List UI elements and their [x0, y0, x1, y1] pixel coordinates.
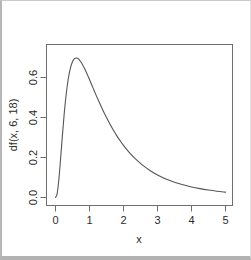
y-tick-label: 0.4: [27, 110, 39, 125]
y-tick-label: 0.0: [27, 190, 39, 205]
y-axis-title: df(x, 6, 18): [7, 99, 19, 152]
x-axis-title: x: [136, 233, 142, 245]
x-tick-label: 4: [188, 214, 194, 226]
y-axis-tick-labels: 0.0 0.2 0.4 0.6: [27, 70, 39, 205]
y-axis-ticks: [41, 78, 47, 198]
plot-box: [47, 45, 233, 206]
x-tick-label: 5: [222, 214, 228, 226]
density-curve: [56, 58, 226, 198]
x-tick-label: 3: [154, 214, 160, 226]
y-tick-label: 0.2: [27, 150, 39, 165]
x-tick-label: 1: [86, 214, 92, 226]
x-axis-ticks: [56, 206, 226, 212]
plot-page: 0 1 2 3 4 5 0.0 0.2 0.4 0.6 df(x, 6, 18)…: [0, 0, 251, 260]
y-tick-label: 0.6: [27, 70, 39, 85]
x-axis-tick-labels: 0 1 2 3 4 5: [52, 214, 228, 226]
density-plot: 0 1 2 3 4 5 0.0 0.2 0.4 0.6 df(x, 6, 18)…: [0, 0, 251, 260]
x-tick-label: 0: [52, 214, 58, 226]
x-tick-label: 2: [120, 214, 126, 226]
